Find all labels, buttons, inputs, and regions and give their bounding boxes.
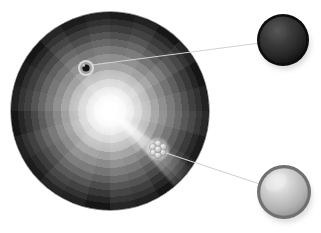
embedded-sphere-cluster (147, 138, 169, 160)
disc-core-glow (68, 69, 153, 154)
embedded-dark-body (78, 60, 94, 76)
disc-body (11, 12, 209, 210)
disc-scene (0, 0, 321, 233)
figure-canvas: Protoplanetary disc with embedded bodies (0, 0, 321, 233)
